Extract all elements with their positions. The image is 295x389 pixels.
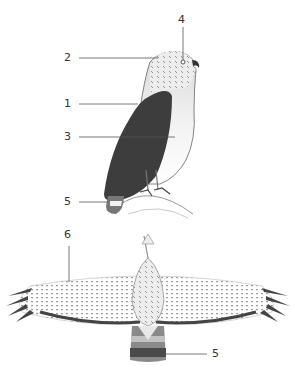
callout-label-3: 3 <box>64 131 71 142</box>
callout-label-1: 1 <box>64 98 71 109</box>
hawk-illustration <box>0 0 295 389</box>
callout-label-6: 6 <box>64 229 71 240</box>
callout-label-4: 4 <box>178 14 185 25</box>
flight-hawk <box>6 234 290 362</box>
callout-label-5-perched: 5 <box>64 196 71 207</box>
perched-hawk <box>104 51 199 218</box>
callout-label-2: 2 <box>64 52 71 63</box>
callout-label-5-flight: 5 <box>212 348 219 359</box>
